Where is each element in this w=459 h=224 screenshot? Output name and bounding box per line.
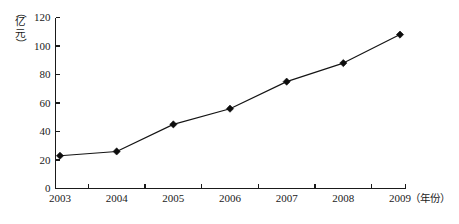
data-point-marker <box>56 152 63 159</box>
data-point-marker <box>113 148 120 155</box>
y-axis-caption: （ 亿 元 ） <box>11 8 29 47</box>
data-point-marker <box>396 31 403 38</box>
data-point-marker <box>283 78 290 85</box>
y-caption-open-paren: （ <box>16 3 24 21</box>
x-axis: 2003200420052006200720082009 <box>49 184 412 204</box>
data-point-markers <box>56 31 403 159</box>
y-tick-label: 40 <box>40 125 52 137</box>
data-point-marker <box>226 105 233 112</box>
data-series <box>60 35 400 156</box>
x-axis-caption: （年份） <box>410 190 450 205</box>
x-tick-label: 2009 <box>389 192 412 204</box>
x-tick-label: 2006 <box>219 192 242 204</box>
y-tick-label: 20 <box>40 154 52 166</box>
y-tick-label: 80 <box>40 68 52 80</box>
chart-page: 020406080100120 200320042005200620072008… <box>0 0 459 224</box>
y-axis: 020406080100120 <box>34 11 60 194</box>
y-caption-close-paren: ） <box>16 34 24 52</box>
x-tick-label: 2007 <box>276 192 299 204</box>
data-point-marker <box>170 121 177 128</box>
series-line <box>60 35 400 156</box>
y-tick-label: 60 <box>40 97 52 109</box>
y-tick-label: 100 <box>34 40 51 52</box>
line-chart: 020406080100120 200320042005200620072008… <box>0 0 459 224</box>
data-point-marker <box>340 60 347 67</box>
x-tick-label: 2003 <box>49 192 72 204</box>
x-tick-label: 2008 <box>332 192 355 204</box>
x-tick-label: 2004 <box>106 192 129 204</box>
y-tick-label: 120 <box>34 11 51 23</box>
x-tick-label: 2005 <box>162 192 185 204</box>
